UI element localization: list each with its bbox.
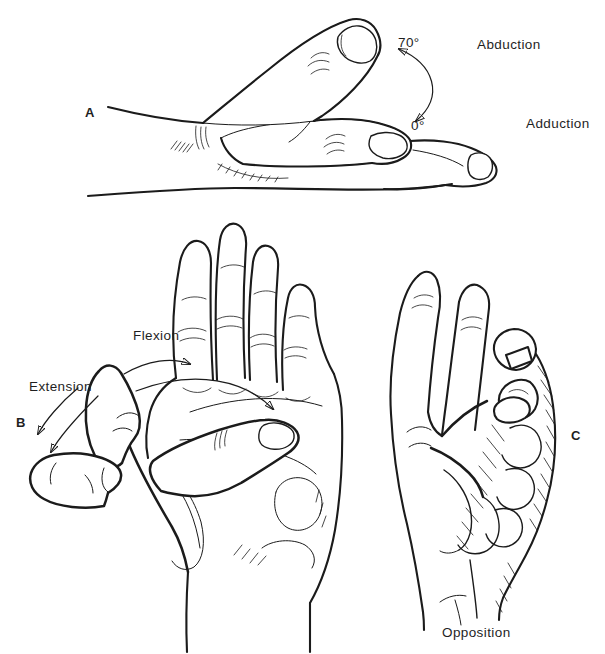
panel-c-letter: C: [571, 428, 580, 443]
panel-c-hand-drawing: [390, 272, 555, 630]
figure-canvas: A 70° Abduction 0° Adduction Flexion Ext…: [0, 0, 605, 654]
panel-a-hand-drawing: [88, 19, 497, 196]
flexion-label: Flexion: [133, 328, 179, 343]
flexion-arrow: [124, 360, 190, 374]
panel-b-hand-drawing: [30, 224, 342, 652]
abduction-label: Abduction: [477, 37, 541, 52]
abduction-adduction-arc-arrow: [399, 49, 433, 121]
adduction-angle-label: 0°: [411, 118, 425, 133]
panel-b-letter: B: [16, 415, 25, 430]
opposition-label: Opposition: [442, 625, 511, 640]
extension-arrow-1: [38, 388, 78, 434]
flexion-arrows: [124, 360, 273, 409]
panel-a-letter: A: [85, 105, 94, 120]
flexion-arrow-long: [136, 379, 273, 409]
adduction-label: Adduction: [526, 116, 590, 131]
abduction-angle-label: 70°: [398, 35, 420, 50]
hand-line-art: [0, 0, 605, 654]
extension-label: Extension: [29, 379, 92, 394]
